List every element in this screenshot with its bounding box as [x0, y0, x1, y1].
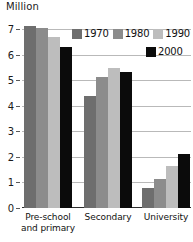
legend-row-primary: 197019801990 [72, 28, 193, 39]
legend-swatch-1970 [72, 29, 82, 39]
y-tick-label-6: 6 [2, 49, 14, 60]
category-label-1: Secondary [76, 212, 140, 223]
y-tick-mark-0 [16, 208, 20, 209]
legend-label-1990: 1990 [165, 28, 190, 39]
y-tick-mark-7 [16, 29, 20, 30]
legend-item-1970[interactable]: 1970 [72, 28, 109, 39]
legend-label-1980: 1980 [125, 28, 150, 39]
category-label-0-line-1: and primary [16, 223, 80, 234]
legend-label-2000: 2000 [158, 46, 183, 57]
legend-swatch-1980 [113, 29, 123, 39]
y-tick-mark-5 [16, 80, 20, 81]
bar-1990-group-1 [108, 68, 120, 208]
legend-swatch-1990 [153, 29, 163, 39]
bar-1970-group-0 [24, 26, 36, 208]
legend-item-2000[interactable]: 2000 [146, 46, 183, 57]
bar-1990-group-0 [48, 37, 60, 208]
y-axis-unit-label: Million [6, 1, 39, 12]
y-tick-mark-3 [16, 131, 20, 132]
y-tick-label-4: 4 [2, 100, 14, 111]
bar-1980-group-1 [96, 77, 108, 208]
y-tick-label-7: 7 [2, 24, 14, 35]
category-label-2-line-0: University [134, 212, 193, 223]
bar-1990-group-2 [166, 166, 178, 208]
legend-swatch-2000 [146, 47, 156, 57]
bar-1980-group-2 [154, 179, 166, 208]
category-label-0-line-0: Pre-school [16, 212, 80, 223]
bar-2000-group-2 [178, 154, 190, 208]
y-tick-mark-4 [16, 106, 20, 107]
y-tick-label-3: 3 [2, 126, 14, 137]
category-label-2: University [134, 212, 193, 223]
y-tick-label-0: 0 [2, 203, 14, 214]
y-tick-label-5: 5 [2, 75, 14, 86]
bar-1980-group-0 [36, 28, 48, 208]
bar-1970-group-1 [84, 96, 96, 208]
legend-item-1990[interactable]: 1990 [153, 28, 190, 39]
y-tick-label-1: 1 [2, 177, 14, 188]
legend-row-secondary: 2000 [146, 46, 187, 57]
bar-chart: Million 01234567 Pre-schooland primarySe… [0, 0, 193, 242]
bar-2000-group-0 [60, 47, 72, 208]
bar-1970-group-2 [142, 188, 154, 208]
y-tick-mark-2 [16, 157, 20, 158]
legend-label-1970: 1970 [84, 28, 109, 39]
y-tick-mark-1 [16, 182, 20, 183]
y-tick-label-2: 2 [2, 151, 14, 162]
legend-item-1980[interactable]: 1980 [113, 28, 150, 39]
category-label-1-line-0: Secondary [76, 212, 140, 223]
y-tick-mark-6 [16, 55, 20, 56]
bar-2000-group-1 [120, 72, 132, 208]
category-label-0: Pre-schooland primary [16, 212, 80, 234]
